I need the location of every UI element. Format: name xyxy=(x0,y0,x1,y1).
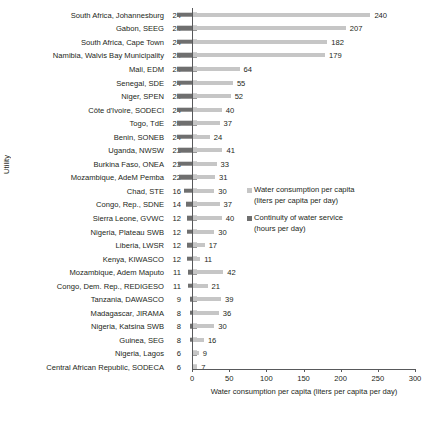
legend-swatch-icon xyxy=(247,188,252,193)
chart-row: Uganda, NWSW2341 xyxy=(0,143,429,157)
chart-row: Mozambique, AdeM Pemba2231 xyxy=(0,171,429,185)
consumption-bar xyxy=(192,162,217,166)
continuity-value-label: 8 xyxy=(164,308,181,317)
continuity-value-label: 12 xyxy=(164,227,181,236)
chart-row: Nigeria, Katsina SWB830 xyxy=(0,320,429,334)
category-label: Congo, Dem. Rep., REDIGESO xyxy=(57,281,164,290)
x-axis-tick xyxy=(415,369,416,372)
chart-row: Togo, TdE2437 xyxy=(0,116,429,130)
continuity-value-label: 14 xyxy=(164,200,181,209)
category-label: Liberia, LWSR xyxy=(116,241,164,250)
continuity-value-label: 11 xyxy=(164,281,181,290)
continuity-value-label: 9 xyxy=(164,295,181,304)
chart-row: Tanzania, DAWASCO939 xyxy=(0,292,429,306)
consumption-bar xyxy=(192,324,214,328)
consumption-value-label: 182 xyxy=(331,37,344,46)
chart-row: Burkina Faso, ONEA2333 xyxy=(0,157,429,171)
category-label: Uganda, NWSW xyxy=(108,146,164,155)
chart-row: Senegal, SDE2455 xyxy=(0,76,429,90)
chart-row: Guinea, SEG816 xyxy=(0,333,429,347)
category-label: Madagascar, JIRAMA xyxy=(91,308,164,317)
x-axis-tick-label: 250 xyxy=(371,374,384,383)
consumption-bar xyxy=(192,216,222,220)
consumption-bar xyxy=(192,40,327,44)
consumption-bar xyxy=(192,26,346,30)
x-axis-tick xyxy=(266,369,267,372)
consumption-value-label: 33 xyxy=(221,159,229,168)
consumption-value-label: 41 xyxy=(226,146,234,155)
consumption-value-label: 37 xyxy=(224,119,232,128)
chart-row: Madagascar, JIRAMA836 xyxy=(0,306,429,320)
category-label: Sierra Leone, GVWC xyxy=(93,213,164,222)
continuity-value-label: 8 xyxy=(164,335,181,344)
chart-legend: Water consumption per capita(liters per … xyxy=(247,185,422,241)
legend-label-line1: Continuity of water service xyxy=(254,213,422,224)
continuity-value-label: 16 xyxy=(164,186,181,195)
x-axis-tick xyxy=(229,369,230,372)
consumption-bar xyxy=(192,297,221,301)
consumption-bar xyxy=(192,311,219,315)
chart-row: Namibia, Walvis Bay Municipality24179 xyxy=(0,49,429,63)
chart-row: Mozambique, Adem Maputo1142 xyxy=(0,265,429,279)
category-label: Senegal, SDE xyxy=(116,78,164,87)
chart-row: Kenya, KIWASCO1211 xyxy=(0,252,429,266)
chart-row: Nigeria, Lagos69 xyxy=(0,347,429,361)
x-axis-tick-label: 100 xyxy=(260,374,273,383)
category-label: Niger, SPEN xyxy=(121,92,164,101)
x-axis-tick xyxy=(378,369,379,372)
category-label: Mali, EDM xyxy=(129,64,164,73)
consumption-value-label: 207 xyxy=(350,24,363,33)
legend-swatch-icon xyxy=(247,216,252,221)
legend-entry: Water consumption per capita(liters per … xyxy=(247,185,422,206)
consumption-bar xyxy=(192,243,205,247)
consumption-value-label: 17 xyxy=(209,241,217,250)
consumption-value-label: 40 xyxy=(226,213,234,222)
consumption-bar xyxy=(192,175,215,179)
consumption-bar xyxy=(192,257,200,261)
consumption-value-label: 16 xyxy=(208,335,216,344)
x-axis-tick xyxy=(304,369,305,372)
consumption-value-label: 37 xyxy=(224,200,232,209)
consumption-bar xyxy=(192,81,233,85)
consumption-value-label: 9 xyxy=(203,349,207,358)
category-label: Gabon, SEEG xyxy=(116,24,164,33)
consumption-value-label: 52 xyxy=(235,92,243,101)
category-label: Benin, SONEB xyxy=(114,132,164,141)
category-label: Mozambique, AdeM Pemba xyxy=(71,173,164,182)
x-axis-tick-label: 0 xyxy=(190,374,194,383)
chart-row: Benin, SONEB2424 xyxy=(0,130,429,144)
consumption-value-label: 30 xyxy=(218,227,226,236)
chart-row: Côte d'Ivoire, SODECI2440 xyxy=(0,103,429,117)
consumption-bar xyxy=(192,148,222,152)
category-label: Namibia, Walvis Bay Municipality xyxy=(53,51,164,60)
chart-row: Mali, EDM2464 xyxy=(0,62,429,76)
category-label: Togo, TdE xyxy=(130,119,164,128)
x-axis-tick xyxy=(192,369,193,372)
category-label: Chad, STE xyxy=(127,186,164,195)
category-label: Kenya, KIWASCO xyxy=(103,254,164,263)
chart-row: Niger, SPEN2452 xyxy=(0,89,429,103)
continuity-value-label: 12 xyxy=(164,241,181,250)
consumption-bar xyxy=(192,135,210,139)
consumption-value-label: 30 xyxy=(218,186,226,195)
category-label: South Africa, Johannesburg xyxy=(71,10,164,19)
y-axis-line xyxy=(192,8,193,369)
legend-label-line2: (hours per day) xyxy=(254,224,422,235)
consumption-value-label: 179 xyxy=(329,51,342,60)
chart-row: Central African Republic, SODECA67 xyxy=(0,360,429,374)
horizontal-bar-chart: Utility South Africa, Johannesburg24240G… xyxy=(0,0,429,426)
consumption-bar xyxy=(192,189,214,193)
consumption-value-label: 42 xyxy=(227,268,235,277)
chart-row: Gabon, SEEG24207 xyxy=(0,22,429,36)
consumption-value-label: 40 xyxy=(226,105,234,114)
continuity-value-label: 12 xyxy=(164,213,181,222)
continuity-value-label: 12 xyxy=(164,254,181,263)
consumption-bar xyxy=(192,230,214,234)
consumption-bar xyxy=(192,270,223,274)
consumption-value-label: 24 xyxy=(214,132,222,141)
consumption-bar xyxy=(192,108,222,112)
category-label: Guinea, SEG xyxy=(119,335,164,344)
x-axis-title: Water consumption per capita (liters per… xyxy=(192,387,416,396)
consumption-bar xyxy=(192,338,204,342)
x-axis-tick-label: 200 xyxy=(334,374,347,383)
